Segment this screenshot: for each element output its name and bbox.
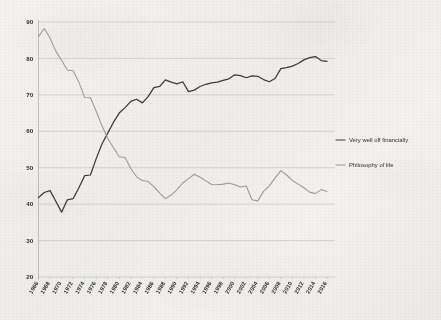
x-tick-label-2000: 2000 — [224, 281, 236, 295]
x-tick-label-1996: 1996 — [201, 281, 213, 295]
x-tick-label-1966: 1966 — [28, 281, 40, 295]
x-tick-label-2014: 2014 — [305, 280, 317, 295]
x-tick-label-1980: 1980 — [109, 281, 121, 295]
x-tick-label-2012: 2012 — [293, 281, 305, 295]
y-tick-label-80: 80 — [26, 55, 34, 62]
legend-label-1: Philosophy of life — [349, 162, 394, 168]
x-tick-label-1986: 1986 — [143, 281, 155, 295]
x-tick-label-1982: 1982 — [120, 281, 132, 295]
y-tick-label-50: 50 — [26, 164, 34, 171]
legend-label-0: Very well off financially — [349, 137, 408, 143]
x-tick-label-2006: 2006 — [259, 281, 271, 295]
x-tick-label-2016: 2016 — [316, 281, 328, 295]
x-tick-label-1984: 1984 — [132, 280, 144, 295]
y-tick-label-90: 90 — [26, 18, 34, 25]
series-line-very-well-off-financially — [39, 57, 328, 213]
x-tick-label-1994: 1994 — [189, 280, 201, 295]
x-tick-label-1998: 1998 — [212, 281, 224, 295]
x-tick-label-1988: 1988 — [155, 281, 167, 295]
gridlines-group — [39, 22, 336, 277]
x-tick-label-1972: 1972 — [62, 281, 74, 295]
data-series-group — [39, 29, 328, 213]
x-tick-label-1968: 1968 — [39, 281, 51, 295]
y-tick-label-20: 20 — [26, 273, 34, 280]
y-tick-label-70: 70 — [26, 91, 34, 98]
x-tick-label-1974: 1974 — [74, 280, 86, 295]
y-axis-tick-labels: 9080706050403020 — [26, 18, 34, 280]
line-chart: 9080706050403020 19661968197019721974197… — [0, 0, 441, 320]
y-tick-label-30: 30 — [26, 237, 34, 244]
y-tick-label-40: 40 — [26, 200, 34, 207]
x-tick-label-2004: 2004 — [247, 280, 259, 295]
chart-legend: Very well off financiallyPhilosophy of l… — [336, 137, 408, 168]
x-tick-label-1992: 1992 — [178, 281, 190, 295]
x-tick-label-1990: 1990 — [166, 281, 178, 295]
x-tick-label-2010: 2010 — [282, 281, 294, 295]
x-tick-label-2002: 2002 — [235, 281, 247, 295]
x-tick-label-1978: 1978 — [97, 281, 109, 295]
chart-page: 9080706050403020 19661968197019721974197… — [0, 0, 441, 320]
x-axis-tick-labels: 1966196819701972197419761978198019821984… — [28, 277, 328, 295]
series-line-philosophy-of-life — [39, 29, 328, 201]
y-tick-label-60: 60 — [26, 127, 34, 134]
x-tick-label-1970: 1970 — [51, 281, 63, 295]
x-tick-label-2008: 2008 — [270, 281, 282, 295]
x-tick-label-1976: 1976 — [85, 281, 97, 295]
